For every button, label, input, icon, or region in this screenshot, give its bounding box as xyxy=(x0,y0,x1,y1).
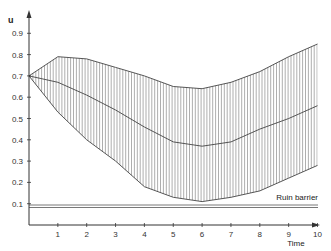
upper-bound-line xyxy=(29,44,318,89)
x-tick-label: 1 xyxy=(56,230,61,239)
x-axis: Time 12345678910 xyxy=(29,223,322,249)
chart: Ruin barrier u 0.10.20.30.40.50.60.70.80… xyxy=(0,0,331,251)
y-tick-label: 0.6 xyxy=(12,93,24,102)
y-axis: u 0.10.20.30.40.50.60.70.80.9 xyxy=(8,10,32,225)
x-tick-label: 5 xyxy=(171,230,176,239)
y-tick-label: 0.4 xyxy=(12,136,24,145)
y-tick-label: 0.9 xyxy=(12,29,24,38)
x-tick-label: 3 xyxy=(113,230,118,239)
y-tick-label: 0.2 xyxy=(12,178,24,187)
y-axis-arrow-icon xyxy=(27,10,32,18)
x-tick-label: 4 xyxy=(142,230,147,239)
y-tick-label: 0.1 xyxy=(12,200,24,209)
x-axis-label: Time xyxy=(287,239,305,248)
x-tick-label: 8 xyxy=(258,230,263,239)
x-tick-label: 2 xyxy=(84,230,89,239)
x-tick-label: 10 xyxy=(313,230,322,239)
y-tick-label: 0.7 xyxy=(12,72,24,81)
y-tick-label: 0.3 xyxy=(12,157,24,166)
y-tick-label: 0.8 xyxy=(12,51,24,60)
x-tick-label: 6 xyxy=(200,230,205,239)
lower-bound-line xyxy=(29,76,318,202)
ruin-barrier-label: Ruin barrier xyxy=(276,193,318,202)
y-tick-label: 0.5 xyxy=(12,115,24,124)
y-axis-label: u xyxy=(8,15,14,25)
ruin-barrier: Ruin barrier xyxy=(29,193,318,208)
x-tick-label: 7 xyxy=(229,230,234,239)
x-tick-label: 9 xyxy=(286,230,291,239)
x-axis-arrow-icon xyxy=(312,223,320,228)
